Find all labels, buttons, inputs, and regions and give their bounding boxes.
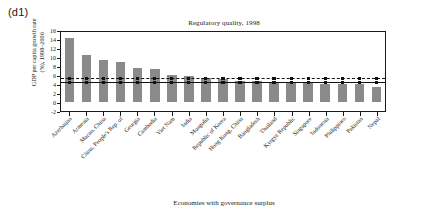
bar xyxy=(184,76,194,102)
bar xyxy=(252,81,262,102)
x-tick-label: India xyxy=(180,116,193,129)
bar-slot xyxy=(78,32,95,111)
x-axis-title: Economies with governance surplus xyxy=(0,199,448,207)
x-label-slot: Pakistan xyxy=(352,116,369,186)
bar-slot xyxy=(351,32,368,111)
bar xyxy=(133,68,143,102)
bar-slot xyxy=(112,32,129,111)
y-tick-label: 14 xyxy=(36,37,56,43)
bar-slot xyxy=(197,32,214,111)
y-tick-label: 10 xyxy=(36,55,56,61)
bar xyxy=(286,82,296,102)
y-tick-label: 4 xyxy=(36,82,56,88)
bar-slot xyxy=(368,32,385,111)
bar xyxy=(150,69,160,102)
bar xyxy=(201,78,211,102)
bar xyxy=(116,62,126,103)
panel-label: (d1) xyxy=(8,6,28,18)
bar xyxy=(65,38,75,102)
x-axis-labels: AzerbaijanArmeniaMacao, ChinaChina, Peop… xyxy=(60,116,386,186)
bar-slot xyxy=(163,32,180,111)
bar-slot xyxy=(334,32,351,111)
bar-slot xyxy=(300,32,317,111)
y-tick-label: 0 xyxy=(36,100,56,106)
x-tick-label: Azerbaijan xyxy=(50,116,73,139)
bar xyxy=(269,82,279,102)
y-tick-label: 2 xyxy=(36,91,56,97)
y-tick-label: 12 xyxy=(36,46,56,52)
bar-series xyxy=(61,32,385,111)
bar-slot xyxy=(95,32,112,111)
y-tick-label: 16 xyxy=(36,28,56,34)
bar-slot xyxy=(249,32,266,111)
bar-slot xyxy=(231,32,248,111)
y-tick-label: 8 xyxy=(36,64,56,70)
chart-title: Regulatory quality, 1998 xyxy=(0,19,448,27)
y-tick-label: -2 xyxy=(36,109,56,115)
y-axis: 1614121086420-2 xyxy=(36,31,60,112)
bar xyxy=(320,84,330,102)
bar xyxy=(99,60,109,102)
plot-area xyxy=(60,31,386,112)
x-label-slot: Nepal xyxy=(369,116,386,186)
bar xyxy=(338,84,348,102)
bar xyxy=(167,75,177,102)
bar xyxy=(235,81,245,102)
bar xyxy=(355,84,365,102)
bar-slot xyxy=(266,32,283,111)
x-label-slot: Viet Nam xyxy=(163,116,180,186)
bar xyxy=(82,55,92,102)
bar-slot xyxy=(146,32,163,111)
bar xyxy=(218,79,228,102)
bar-slot xyxy=(180,32,197,111)
bar-slot xyxy=(61,32,78,111)
y-tick-label: 6 xyxy=(36,73,56,79)
bar-slot xyxy=(129,32,146,111)
bar-slot xyxy=(283,32,300,111)
x-tick-label: Nepal xyxy=(367,116,381,130)
bar-slot xyxy=(317,32,334,111)
bar-slot xyxy=(214,32,231,111)
bar xyxy=(303,83,313,102)
bar xyxy=(372,87,382,102)
